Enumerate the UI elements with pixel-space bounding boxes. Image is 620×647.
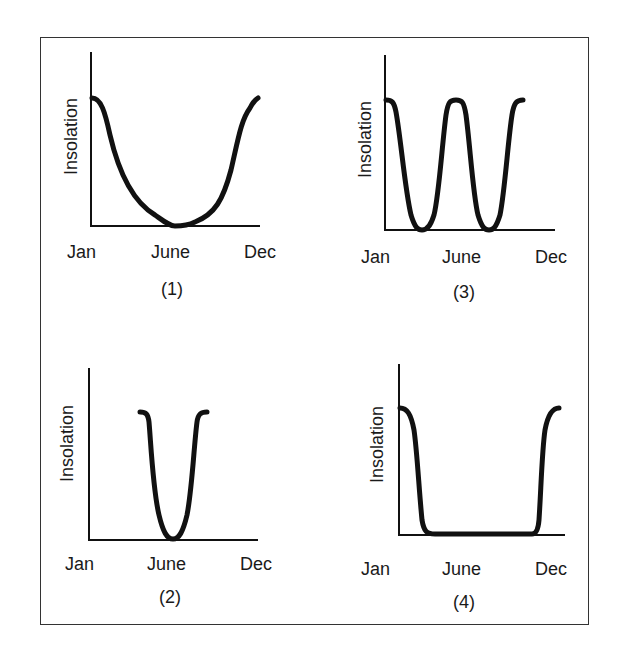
x-tick-june: June: [442, 559, 481, 580]
series-line: [140, 412, 207, 539]
y-axis-label: Insolation: [367, 406, 388, 483]
x-tick-jan: Jan: [67, 242, 96, 263]
x-tick-june: June: [151, 242, 190, 263]
x-tick-jan: Jan: [361, 247, 390, 268]
y-axis-label: Insolation: [61, 98, 82, 175]
chart-4-plot: [345, 360, 595, 630]
y-axis-label: Insolation: [355, 101, 376, 178]
series-line: [386, 100, 523, 230]
chart-panel-3: Insolation Jan June Dec (3): [345, 50, 595, 320]
series-line: [92, 98, 258, 226]
y-axis-label: Insolation: [57, 405, 78, 482]
panel-caption: (1): [161, 279, 183, 300]
chart-panel-2: Insolation Jan June Dec (2): [55, 360, 305, 630]
chart-panel-4: Insolation Jan June Dec (4): [345, 360, 595, 630]
x-tick-dec: Dec: [240, 554, 272, 575]
x-tick-jan: Jan: [65, 554, 94, 575]
x-tick-dec: Dec: [535, 247, 567, 268]
x-tick-dec: Dec: [244, 242, 276, 263]
series-line: [400, 408, 559, 534]
panel-caption: (2): [159, 587, 181, 608]
chart-3-plot: [345, 50, 595, 320]
x-tick-jan: Jan: [361, 559, 390, 580]
chart-panel-1: Insolation Jan June Dec (1): [55, 50, 305, 320]
x-tick-dec: Dec: [535, 559, 567, 580]
panel-caption: (4): [453, 592, 475, 613]
x-tick-june: June: [442, 247, 481, 268]
panel-caption: (3): [453, 282, 475, 303]
x-tick-june: June: [147, 554, 186, 575]
